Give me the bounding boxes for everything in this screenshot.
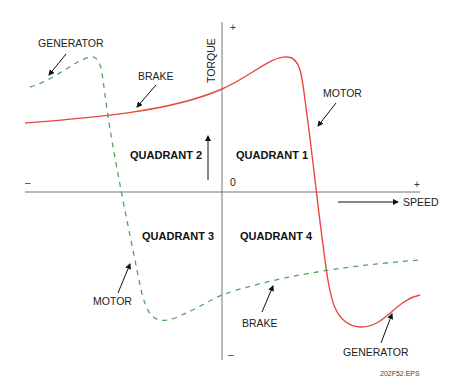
four-quadrant-diagram: + – – + 0 TORQUE SPEED QUADRANT 2 QUADRA… xyxy=(0,0,461,392)
quadrant-1-label: QUADRANT 1 xyxy=(236,149,308,161)
speed-axis-label: SPEED xyxy=(403,196,439,208)
motor-bottom-left-arrow xyxy=(118,264,130,293)
brake-top-arrow xyxy=(137,85,156,107)
bottom-sign: – xyxy=(228,349,234,360)
generator-top-left-arrow xyxy=(49,54,66,75)
left-sign: – xyxy=(25,177,31,188)
top-sign: + xyxy=(230,22,236,33)
brake-bottom-arrow xyxy=(262,286,273,312)
quadrant-2-label: QUADRANT 2 xyxy=(130,149,202,161)
quadrant-4-label: QUADRANT 4 xyxy=(240,230,313,242)
motor-top-right-arrow xyxy=(318,103,336,126)
right-sign: + xyxy=(414,179,420,190)
torque-axis-label: TORQUE xyxy=(205,38,217,83)
quadrant-3-label: QUADRANT 3 xyxy=(142,230,214,242)
motor-label-bottom-left: MOTOR xyxy=(93,295,132,307)
generator-label-top-left: GENERATOR xyxy=(38,37,104,49)
brake-label-top: BRAKE xyxy=(138,70,174,82)
origin-label: 0 xyxy=(230,176,236,188)
generator-label-bottom-right: GENERATOR xyxy=(343,346,409,358)
motor-label-top-right: MOTOR xyxy=(323,87,362,99)
file-label: 202F52.EPS xyxy=(380,370,420,377)
brake-label-bottom: BRAKE xyxy=(242,317,278,329)
